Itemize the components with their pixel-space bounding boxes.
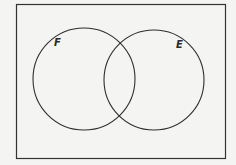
venn-diagram: F E: [0, 0, 236, 165]
set-f-label: F: [54, 37, 61, 48]
set-e-label: E: [176, 39, 183, 50]
universal-set-rectangle: [17, 5, 226, 159]
